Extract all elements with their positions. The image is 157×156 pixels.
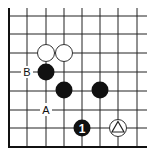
black-stone [56, 82, 73, 99]
move-number-label: 1 [79, 122, 86, 136]
white-stone [38, 45, 55, 62]
point-label-a: A [42, 104, 50, 116]
white-stone [56, 45, 73, 62]
go-board: 1 B A [0, 0, 157, 156]
black-stone [92, 82, 109, 99]
point-label-b: B [23, 66, 30, 78]
black-stone [38, 64, 55, 81]
